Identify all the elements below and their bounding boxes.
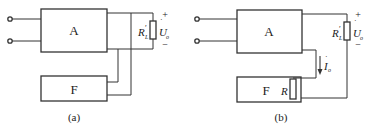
feedback-resistor xyxy=(290,79,296,99)
input-terminal-top xyxy=(8,17,12,21)
block-f-label: F xyxy=(262,83,269,98)
block-a-label: A xyxy=(69,23,79,38)
caption-a: (a) xyxy=(68,111,81,124)
panel-a xyxy=(8,9,156,101)
output-wire-top xyxy=(302,14,347,22)
block-a-label: A xyxy=(264,24,274,39)
load-label-prime: ′ xyxy=(145,24,147,33)
feedback-wire-sense xyxy=(107,13,131,95)
output-wire-bottom xyxy=(107,39,153,49)
input-terminal-bottom xyxy=(8,39,12,43)
current-label-sub: o xyxy=(328,67,331,73)
load-label-sub: L xyxy=(144,34,149,40)
plus-sign: + xyxy=(355,9,361,20)
load-label-sub: L xyxy=(338,35,343,41)
load-label-name: R xyxy=(137,26,145,38)
load-label-prime: ′ xyxy=(339,25,341,34)
caption-b: (b) xyxy=(275,111,288,124)
load-resistor xyxy=(150,21,156,39)
output-wire-top xyxy=(107,13,153,21)
plus-sign: + xyxy=(162,9,168,20)
current-sense-wire xyxy=(293,50,316,78)
minus-sign: − xyxy=(355,39,361,50)
feedback-resistor-label: R xyxy=(280,85,288,97)
load-label-name: R xyxy=(331,27,339,39)
block-f-label: F xyxy=(70,82,77,97)
feedback-circuits-figure: A F R ′ L · U o + − (a) A F R R ′ L · U … xyxy=(0,0,365,126)
input-terminal-top xyxy=(195,17,199,21)
current-arrow-icon xyxy=(318,69,323,75)
load-resistor xyxy=(344,22,350,40)
minus-sign: − xyxy=(162,39,168,50)
input-terminal-bottom xyxy=(195,39,199,43)
feedback-wire-return xyxy=(107,49,118,82)
